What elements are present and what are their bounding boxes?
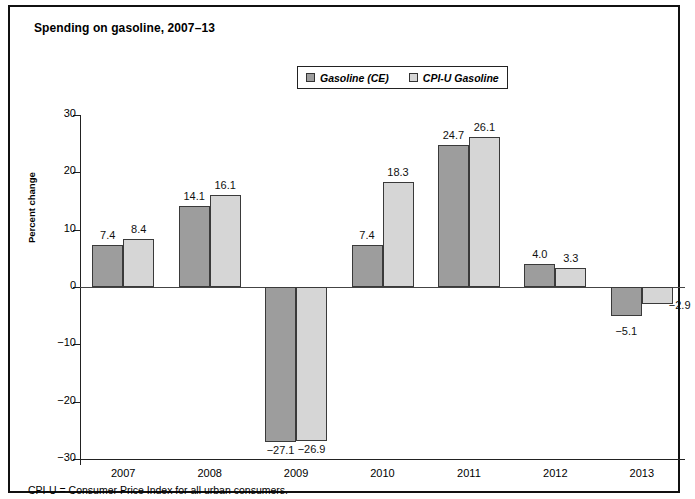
bar-value-label-2012-series-1: 3.3 — [546, 252, 595, 264]
y-tick-label: 10 — [64, 222, 76, 234]
bar-2007-series-1[interactable] — [123, 239, 154, 287]
bar-2011-series-0[interactable] — [438, 145, 469, 287]
x-axis-origin-tick — [80, 459, 81, 465]
bar-value-label-2013-series-0: −5.1 — [603, 325, 650, 337]
bar-2010-series-0[interactable] — [352, 245, 383, 287]
x-tick-label-2012: 2012 — [525, 467, 585, 479]
x-tick-label-2007: 2007 — [93, 467, 153, 479]
bar-2011-series-1[interactable] — [469, 137, 500, 287]
legend-label-series-0: Gasoline (CE) — [320, 72, 389, 84]
bar-group-2013: −5.1−2.9 — [611, 115, 673, 459]
bar-value-label-2007-series-1: 8.4 — [114, 223, 163, 235]
bar-group-2010: 7.418.3 — [352, 115, 414, 459]
y-tick-label: 30 — [64, 107, 76, 119]
bar-group-2007: 7.48.4 — [92, 115, 154, 459]
bar-2008-series-0[interactable] — [179, 206, 210, 287]
bar-value-label-2011-series-1: 26.1 — [460, 121, 509, 133]
y-tick-label: 20 — [64, 164, 76, 176]
bar-2013-series-0[interactable] — [611, 287, 642, 316]
x-tick-label-2010: 2010 — [353, 467, 413, 479]
bar-group-2009: −27.1−26.9 — [265, 115, 327, 459]
x-axis-line — [80, 459, 685, 460]
chart-title: Spending on gasoline, 2007–13 — [34, 21, 215, 35]
y-tick-label: −20 — [57, 394, 76, 406]
bar-2009-series-1[interactable] — [296, 287, 327, 441]
chart-legend: Gasoline (CE) CPI-U Gasoline — [297, 66, 508, 89]
chart-footnote: CPI-U = Consumer Price Index for all urb… — [28, 484, 288, 496]
bar-value-label-2010-series-1: 18.3 — [374, 166, 423, 178]
legend-label-series-1: CPI-U Gasoline — [423, 72, 499, 84]
y-tick-label: −30 — [57, 451, 76, 463]
bar-2008-series-1[interactable] — [210, 195, 241, 287]
legend-item-cpi-u-gasoline: CPI-U Gasoline — [409, 72, 499, 84]
legend-swatch-icon-series-0 — [306, 73, 315, 82]
bar-value-label-2008-series-1: 16.1 — [201, 179, 250, 191]
bar-2012-series-1[interactable] — [555, 268, 586, 287]
y-axis-title: Percent change — [26, 225, 37, 243]
bar-value-label-2013-series-1: −2.9 — [669, 299, 695, 311]
bar-group-2008: 14.116.1 — [179, 115, 241, 459]
bar-2012-series-0[interactable] — [524, 264, 555, 287]
y-tick-label: 0 — [70, 279, 76, 291]
x-tick-label-2009: 2009 — [266, 467, 326, 479]
y-tick-label: −10 — [57, 336, 76, 348]
bar-2007-series-0[interactable] — [92, 245, 123, 287]
x-tick-label-2011: 2011 — [439, 467, 499, 479]
bar-2010-series-1[interactable] — [383, 182, 414, 287]
bar-value-label-2009-series-1: −26.9 — [289, 443, 334, 455]
bar-2009-series-0[interactable] — [265, 287, 296, 442]
bar-group-2011: 24.726.1 — [438, 115, 500, 459]
chart-frame: Spending on gasoline, 2007–13 Gasoline (… — [8, 5, 680, 493]
x-tick-label-2013: 2013 — [612, 467, 672, 479]
legend-swatch-icon-series-1 — [409, 73, 418, 82]
legend-item-gasoline-ce: Gasoline (CE) — [306, 72, 389, 84]
x-tick-label-2008: 2008 — [180, 467, 240, 479]
bar-group-2012: 4.03.3 — [524, 115, 586, 459]
plot-area: 3020100−10−20−30 7.48.414.116.1−27.1−26.… — [80, 115, 685, 459]
